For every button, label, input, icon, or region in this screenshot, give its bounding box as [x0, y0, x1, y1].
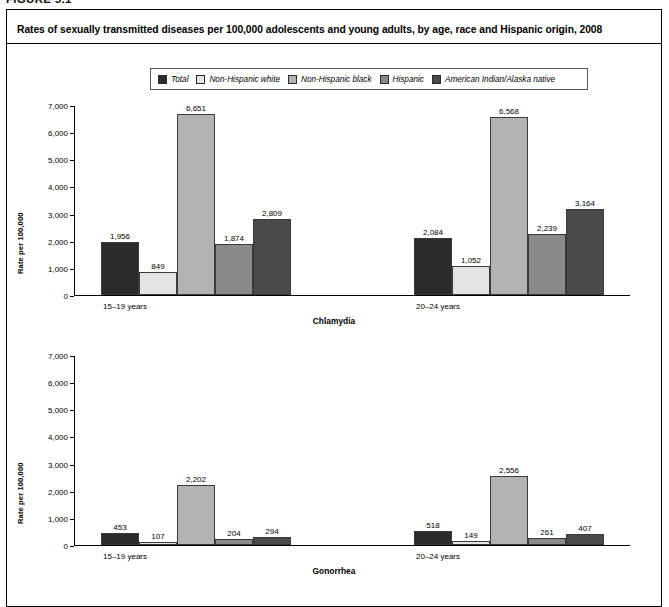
legend-item-label: Non-Hispanic white	[209, 75, 280, 84]
category-label-15-19: 15–19 years	[75, 302, 175, 311]
figure-number: FIGURE 5.1	[6, 0, 72, 5]
bar	[490, 117, 528, 295]
y-tick-mark	[70, 269, 74, 270]
category-label-20-24: 20–24 years	[388, 302, 488, 311]
title-divider	[7, 43, 661, 44]
legend-item: Non-Hispanic black	[288, 75, 372, 84]
bar	[452, 541, 490, 545]
bar	[414, 238, 452, 295]
bar-slot: 3,164	[566, 106, 604, 295]
bar	[139, 272, 177, 295]
panel-caption-gonorrhea: Gonorrhea	[7, 566, 661, 576]
chart-panel-chlamydia: Rate per 100,000 01,0002,0003,0004,0005,…	[7, 96, 661, 341]
bar	[528, 234, 566, 295]
legend-item: Hispanic	[380, 75, 424, 84]
bar-slot: 149	[452, 356, 490, 545]
bar-slot: 261	[528, 356, 566, 545]
bar	[215, 244, 253, 295]
legend-item-label: Hispanic	[393, 75, 424, 84]
bar	[215, 539, 253, 545]
legend-swatch-icon	[432, 75, 441, 84]
legend-swatch-icon	[288, 75, 297, 84]
chart-legend: TotalNon-Hispanic whiteNon-Hispanic blac…	[150, 68, 588, 90]
y-tick-label: 2,000	[28, 237, 68, 246]
legend-item: American Indian/Alaska native	[432, 75, 555, 84]
y-tick-label: 6,000	[28, 379, 68, 388]
y-axis-title: Rate per 100,000	[16, 438, 28, 548]
bar-value-label: 2,809	[243, 209, 301, 218]
y-tick-label: 1,000	[28, 514, 68, 523]
bar	[528, 538, 566, 545]
x-axis-line	[74, 545, 630, 546]
bar-slot: 2,556	[490, 356, 528, 545]
bar-slot: 2,084	[414, 106, 452, 295]
bar-slot: 294	[253, 356, 291, 545]
y-tick-mark	[70, 437, 74, 438]
x-axis-line	[74, 295, 630, 296]
bar	[253, 537, 291, 545]
y-tick-mark	[70, 410, 74, 411]
panel-caption-chlamydia: Chlamydia	[7, 316, 661, 326]
category-label-15-19: 15–19 years	[75, 552, 175, 561]
bar-slot: 453	[101, 356, 139, 545]
y-tick-label: 3,000	[28, 210, 68, 219]
y-tick-label: 1,000	[28, 264, 68, 273]
y-tick-label: 4,000	[28, 183, 68, 192]
bar	[452, 266, 490, 295]
legend-item-label: Total	[171, 75, 188, 84]
bar-slot: 1,052	[452, 106, 490, 295]
bar-group-20-24: 5181492,556261407	[414, 356, 604, 545]
y-tick-label: 5,000	[28, 156, 68, 165]
y-tick-mark	[70, 242, 74, 243]
y-tick-label: 2,000	[28, 487, 68, 496]
legend-item-label: American Indian/Alaska native	[445, 75, 555, 84]
chart-panel-gonorrhea: Rate per 100,000 01,0002,0003,0004,0005,…	[7, 346, 661, 596]
y-tick-label: 4,000	[28, 433, 68, 442]
bar-slot: 2,202	[177, 356, 215, 545]
bar-slot: 518	[414, 356, 452, 545]
bars-container: 1,9568496,6511,8742,809 2,0841,0526,5682…	[75, 106, 630, 295]
y-tick-label: 0	[28, 542, 68, 551]
plot-area-gonorrhea: 01,0002,0003,0004,0005,0006,0007,000 453…	[74, 356, 630, 546]
y-tick-label: 7,000	[28, 102, 68, 111]
bar-value-label: 3,164	[556, 199, 614, 208]
bar-group-20-24: 2,0841,0526,5682,2393,164	[414, 106, 604, 295]
y-tick-mark	[70, 187, 74, 188]
y-tick-mark	[70, 465, 74, 466]
bar	[139, 542, 177, 545]
y-tick-label: 5,000	[28, 406, 68, 415]
bar-value-label: 294	[243, 527, 301, 536]
figure-title: Rates of sexually transmitted diseases p…	[17, 23, 651, 36]
bars-container: 4531072,202204294 5181492,556261407	[75, 356, 630, 545]
bar	[253, 219, 291, 295]
y-tick-label: 7,000	[28, 352, 68, 361]
bar-slot: 204	[215, 356, 253, 545]
y-tick-mark	[70, 519, 74, 520]
y-tick-label: 3,000	[28, 460, 68, 469]
bar-group-15-19: 4531072,202204294	[101, 356, 291, 545]
y-tick-mark	[70, 296, 74, 297]
bar-slot: 107	[139, 356, 177, 545]
bar	[566, 209, 604, 295]
bar-slot: 2,809	[253, 106, 291, 295]
legend-item: Non-Hispanic white	[196, 75, 280, 84]
category-label-20-24: 20–24 years	[388, 552, 488, 561]
figure-frame: Rates of sexually transmitted diseases p…	[6, 9, 662, 607]
y-tick-mark	[70, 215, 74, 216]
bar-slot: 1,874	[215, 106, 253, 295]
bar-value-label: 407	[556, 524, 614, 533]
bar-slot: 6,568	[490, 106, 528, 295]
y-tick-mark	[70, 356, 74, 357]
y-tick-mark	[70, 492, 74, 493]
y-tick-mark	[70, 106, 74, 107]
y-tick-mark	[70, 133, 74, 134]
y-tick-mark	[70, 383, 74, 384]
legend-swatch-icon	[158, 75, 167, 84]
y-tick-mark	[70, 160, 74, 161]
bar	[177, 114, 215, 295]
bar-slot: 407	[566, 356, 604, 545]
legend-item-label: Non-Hispanic black	[301, 75, 372, 84]
bar-slot: 849	[139, 106, 177, 295]
y-tick-mark	[70, 546, 74, 547]
bar-group-15-19: 1,9568496,6511,8742,809	[101, 106, 291, 295]
